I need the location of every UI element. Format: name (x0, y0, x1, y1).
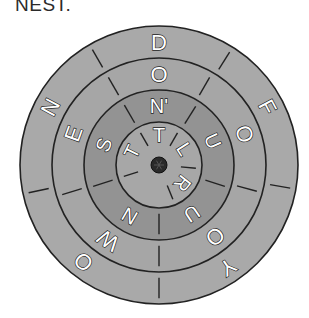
ring-letter: T (153, 124, 165, 146)
ring-letter: O (150, 62, 167, 87)
center-hub (151, 157, 167, 173)
ring-letter: D (151, 30, 167, 55)
ring-letter: N' (150, 95, 168, 117)
cipher-wheel: DFYONOOOWEN'UUNSTLRT (0, 0, 309, 318)
